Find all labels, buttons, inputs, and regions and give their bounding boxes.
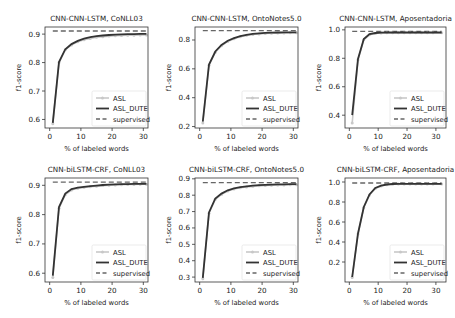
x-tick-label: 10 bbox=[226, 132, 236, 141]
x-tick-label: 10 bbox=[76, 132, 86, 141]
y-axis-label: f1-score bbox=[315, 216, 323, 243]
subplot-title: CNN-CNN-LSTM, OntoNotes5.0 bbox=[191, 14, 302, 23]
y-tick-label: 0.6 bbox=[329, 82, 341, 91]
y-tick-label: 1.0 bbox=[329, 178, 341, 187]
subplot-6: CNN-biLSTM-CRF, Aposentadoria01020300.20… bbox=[315, 165, 454, 307]
x-tick-label: 0 bbox=[47, 286, 52, 295]
legend: ASLASL_DUTEsupervised bbox=[242, 91, 300, 126]
y-tick-label: 0.7 bbox=[29, 87, 40, 96]
x-tick-label: 0 bbox=[347, 132, 352, 141]
subplot-1: CNN-CNN-LSTM, CoNLL0301020300.60.70.80.9… bbox=[15, 14, 150, 153]
legend-item-asl-dute: ASL_DUTE bbox=[113, 105, 148, 113]
x-tick-label: 30 bbox=[139, 286, 149, 295]
y-tick-label: 0.8 bbox=[179, 191, 191, 200]
y-tick-label: 0.2 bbox=[179, 122, 190, 131]
legend-item-asl: ASL bbox=[411, 95, 424, 103]
x-axis-label: % of labeled words bbox=[363, 299, 428, 307]
asl-marker bbox=[351, 122, 354, 125]
y-tick-label: 0.8 bbox=[29, 58, 41, 67]
subplot-3: CNN-CNN-LSTM, Aposentadoria01020300.40.6… bbox=[315, 14, 452, 153]
x-axis-label: % of labeled words bbox=[64, 145, 129, 153]
x-tick-label: 30 bbox=[431, 286, 441, 295]
subplot-title: CNN-biLSTM-CRF, OntoNotes5.0 bbox=[189, 165, 304, 174]
y-tick-label: 0.4 bbox=[179, 93, 191, 102]
y-tick-label: 0.8 bbox=[329, 198, 341, 207]
y-tick-label: 1.0 bbox=[329, 25, 341, 34]
legend-item-asl: ASL bbox=[113, 249, 126, 257]
x-axis-label: % of labeled words bbox=[214, 299, 279, 307]
x-tick-label: 20 bbox=[402, 132, 412, 141]
x-axis-label: % of labeled words bbox=[363, 145, 428, 153]
x-tick-label: 10 bbox=[374, 286, 384, 295]
x-tick-label: 0 bbox=[197, 132, 202, 141]
legend-item-asl: ASL bbox=[263, 249, 276, 257]
x-tick-label: 20 bbox=[258, 132, 268, 141]
y-tick-label: 0.8 bbox=[329, 54, 341, 63]
x-tick-label: 30 bbox=[139, 132, 149, 141]
y-tick-label: 0.6 bbox=[29, 115, 41, 124]
y-tick-label: 0.7 bbox=[29, 239, 40, 248]
subplot-title: CNN-CNN-LSTM, Aposentadoria bbox=[339, 14, 452, 23]
x-tick-label: 20 bbox=[258, 286, 268, 295]
y-axis-label: f1-score bbox=[15, 216, 23, 243]
y-tick-label: 0.4 bbox=[329, 111, 341, 120]
x-tick-label: 10 bbox=[226, 286, 236, 295]
y-tick-label: 0.9 bbox=[179, 174, 191, 183]
subplot-5: CNN-biLSTM-CRF, OntoNotes5.001020300.30.… bbox=[165, 165, 304, 307]
y-tick-label: 0.2 bbox=[329, 258, 340, 267]
asl-marker bbox=[201, 121, 204, 124]
subplot-4: CNN-biLSTM-CRF, CoNLL0301020300.60.70.80… bbox=[15, 165, 150, 307]
subplot-2: CNN-CNN-LSTM, OntoNotes5.001020300.20.40… bbox=[165, 14, 302, 153]
legend-item-supervised: supervised bbox=[411, 270, 448, 278]
legend: ASLASL_DUTEsupervised bbox=[390, 245, 448, 280]
y-axis-label: f1-score bbox=[15, 64, 23, 91]
y-tick-label: 0.9 bbox=[29, 30, 41, 39]
x-tick-label: 10 bbox=[374, 132, 384, 141]
legend-item-asl: ASL bbox=[113, 95, 126, 103]
subplot-title: CNN-biLSTM-CRF, CoNLL03 bbox=[48, 165, 145, 174]
y-tick-label: 0.9 bbox=[29, 181, 41, 190]
y-axis-label: f1-score bbox=[165, 216, 173, 243]
legend-item-asl: ASL bbox=[411, 249, 424, 257]
legend-item-asl-dute: ASL_DUTE bbox=[263, 259, 298, 267]
legend-item-supervised: supervised bbox=[113, 270, 150, 278]
legend-item-asl-dute: ASL_DUTE bbox=[113, 259, 148, 267]
legend-item-supervised: supervised bbox=[263, 116, 300, 124]
x-tick-label: 20 bbox=[108, 132, 118, 141]
legend-item-supervised: supervised bbox=[411, 116, 448, 124]
y-tick-label: 0.8 bbox=[29, 210, 41, 219]
legend: ASLASL_DUTEsupervised bbox=[390, 91, 448, 126]
x-tick-label: 30 bbox=[289, 286, 299, 295]
x-tick-label: 20 bbox=[402, 286, 412, 295]
x-tick-label: 0 bbox=[197, 286, 202, 295]
y-tick-label: 0.6 bbox=[179, 223, 191, 232]
x-tick-label: 0 bbox=[347, 286, 352, 295]
y-tick-label: 0.6 bbox=[29, 269, 41, 278]
x-axis-label: % of labeled words bbox=[64, 299, 129, 307]
y-tick-label: 0.3 bbox=[179, 273, 190, 282]
y-tick-label: 0.8 bbox=[179, 35, 191, 44]
legend: ASLASL_DUTEsupervised bbox=[92, 245, 150, 280]
y-tick-label: 0.4 bbox=[329, 238, 341, 247]
x-tick-label: 10 bbox=[76, 286, 86, 295]
y-tick-label: 0.7 bbox=[179, 207, 190, 216]
legend-item-asl: ASL bbox=[263, 95, 276, 103]
x-axis-label: % of labeled words bbox=[214, 145, 279, 153]
legend-item-asl-dute: ASL_DUTE bbox=[263, 105, 298, 113]
legend: ASLASL_DUTEsupervised bbox=[242, 245, 300, 280]
x-tick-label: 30 bbox=[289, 132, 299, 141]
y-tick-label: 0.6 bbox=[179, 64, 191, 73]
x-tick-label: 0 bbox=[47, 132, 52, 141]
y-tick-label: 0.6 bbox=[329, 218, 341, 227]
y-axis-label: f1-score bbox=[165, 64, 173, 91]
legend-item-supervised: supervised bbox=[113, 116, 150, 124]
asl-marker bbox=[51, 276, 54, 279]
legend-item-asl-dute: ASL_DUTE bbox=[411, 259, 446, 267]
y-axis-label: f1-score bbox=[315, 64, 323, 91]
legend-item-supervised: supervised bbox=[263, 270, 300, 278]
y-tick-label: 0.4 bbox=[179, 256, 191, 265]
x-tick-label: 20 bbox=[108, 286, 118, 295]
legend: ASLASL_DUTEsupervised bbox=[92, 91, 150, 126]
subplot-title: CNN-CNN-LSTM, CoNLL03 bbox=[50, 14, 142, 23]
y-tick-label: 0.5 bbox=[179, 240, 190, 249]
